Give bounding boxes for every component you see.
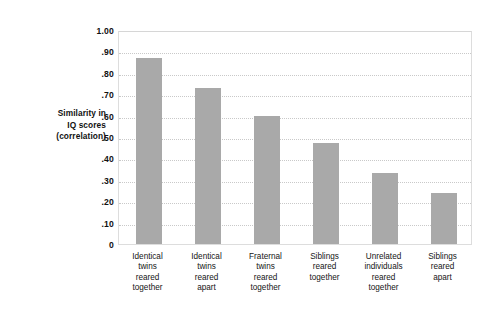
y-tick-label: .70: [74, 91, 114, 100]
x-tick-label-line: Identical: [178, 252, 236, 262]
bar: [195, 88, 221, 244]
gridline: [119, 118, 471, 119]
gridline: [119, 182, 471, 183]
gridline: [119, 53, 471, 54]
bar: [313, 143, 339, 244]
x-tick-label-line: reared: [119, 273, 177, 283]
gridline: [119, 96, 471, 97]
y-tick-label: .40: [74, 155, 114, 164]
x-tick-label: Identicaltwinsrearedapart: [178, 252, 236, 294]
x-tick-label-line: apart: [414, 273, 472, 283]
y-tick-label: .10: [74, 220, 114, 229]
x-tick-label-line: together: [355, 283, 413, 293]
bar: [372, 173, 398, 244]
y-axis-title-line-2: IQ scores: [14, 120, 106, 132]
y-tick-label: .30: [74, 177, 114, 186]
x-tick-label: Fraternaltwinsrearedtogether: [237, 252, 295, 294]
y-tick-label: .50: [74, 134, 114, 143]
x-tick-label-line: Siblings: [414, 252, 472, 262]
plot-area: [118, 31, 472, 245]
x-tick-label-line: twins: [119, 262, 177, 272]
x-tick-label-line: twins: [178, 262, 236, 272]
bar: [136, 58, 162, 244]
gridline: [119, 225, 471, 226]
x-tick-label-line: together: [237, 283, 295, 293]
x-tick-label-line: twins: [237, 262, 295, 272]
y-tick-label: 1.00: [74, 27, 114, 36]
bar: [254, 116, 280, 244]
x-tick-label: Identicaltwinsrearedtogether: [119, 252, 177, 294]
gridline: [119, 139, 471, 140]
x-tick-label-line: together: [119, 283, 177, 293]
x-tick-label-line: reared: [414, 262, 472, 272]
x-tick-label-line: apart: [178, 283, 236, 293]
x-tick-label-line: Fraternal: [237, 252, 295, 262]
x-tick-label: Siblingsrearedtogether: [296, 252, 354, 283]
x-tick-label: Siblingsrearedapart: [414, 252, 472, 283]
x-tick-label-line: reared: [355, 273, 413, 283]
y-tick-label: .80: [74, 70, 114, 79]
x-tick-label-line: reared: [237, 273, 295, 283]
gridline: [119, 203, 471, 204]
gridline: [119, 160, 471, 161]
y-tick-label: 0: [74, 241, 114, 250]
bar: [431, 193, 457, 244]
y-tick-label: .20: [74, 198, 114, 207]
x-tick-label-line: Siblings: [296, 252, 354, 262]
y-tick-label: .60: [74, 113, 114, 122]
iq-similarity-bar-chart: Similarity in IQ scores (correlation) 1.…: [0, 0, 488, 310]
x-tick-label-line: individuals: [355, 262, 413, 272]
x-tick-label-line: together: [296, 273, 354, 283]
gridline: [119, 75, 471, 76]
x-tick-label: Unrelatedindividualsrearedtogether: [355, 252, 413, 294]
y-tick-label: .90: [74, 48, 114, 57]
x-tick-label-line: reared: [296, 262, 354, 272]
x-tick-label-line: Identical: [119, 252, 177, 262]
x-tick-label-line: reared: [178, 273, 236, 283]
x-tick-label-line: Unrelated: [355, 252, 413, 262]
